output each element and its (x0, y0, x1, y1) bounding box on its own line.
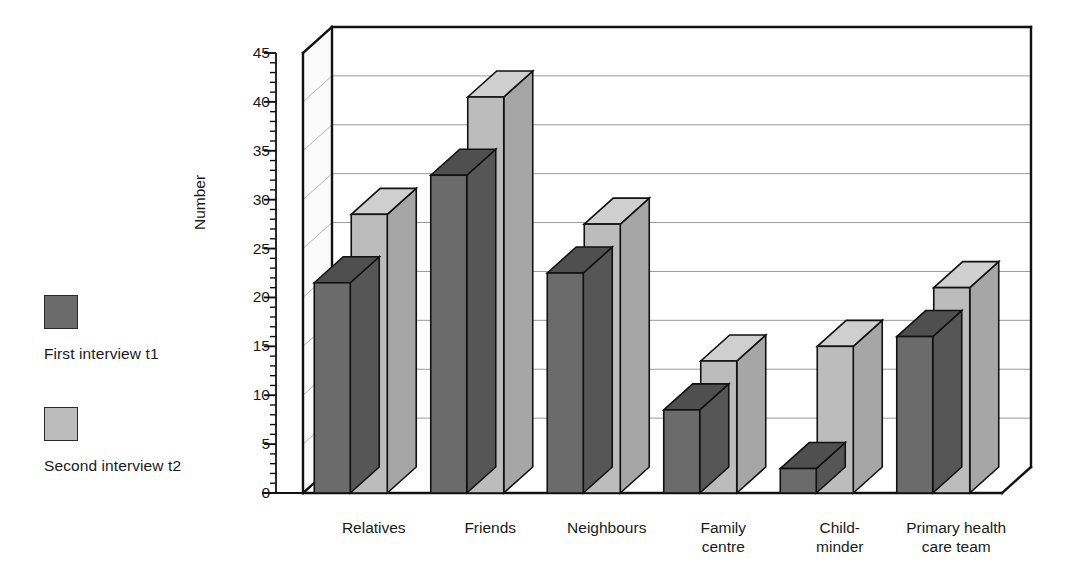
x-tick-label: Family centre (700, 518, 746, 557)
x-axis-tick-labels: RelativesFriendsNeighboursFamily centreC… (0, 0, 1085, 580)
x-tick-label: Primary health care team (906, 518, 1006, 557)
x-tick-label: Friends (464, 518, 516, 537)
x-tick-label: Relatives (342, 518, 406, 537)
x-tick-label: Child- minder (816, 518, 863, 557)
x-tick-label: Neighbours (567, 518, 646, 537)
bar-chart-figure: First interview t1 Second interview t2 N… (0, 0, 1085, 580)
